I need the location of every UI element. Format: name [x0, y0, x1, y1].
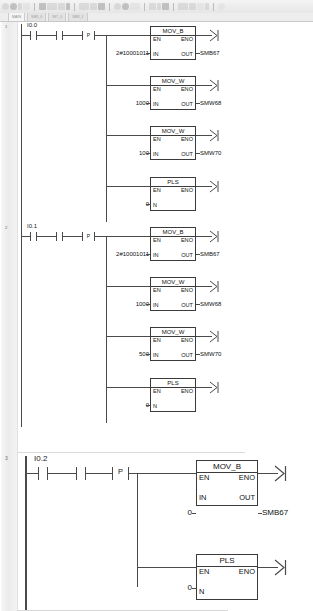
operand-in-mov-b-rung-1[interactable]: 2#10001011	[100, 50, 149, 57]
box-pls-rung-1[interactable]: PLS EN ENO N	[150, 177, 196, 211]
ladder-editor-canvas[interactable]: 1 I0.0 P MOV_B EN ENO IN OUT 2#10001011 …	[0, 22, 313, 611]
run-icon[interactable]	[114, 3, 121, 10]
eno-terminator-icon	[209, 180, 220, 193]
tab-sbr-0[interactable]: SBR_0	[27, 13, 46, 21]
eno-terminator-icon	[209, 29, 220, 42]
toolbar-separator	[109, 3, 110, 11]
download-icon[interactable]	[90, 3, 97, 10]
tab-main[interactable]: MAIN	[8, 13, 25, 21]
rung-number-2: 2	[5, 225, 7, 230]
open-icon[interactable]	[10, 3, 17, 10]
box-pls-rung-3[interactable]: PLS EN ENO N	[196, 554, 258, 600]
power-rail-rung-2	[21, 225, 22, 427]
help-icon[interactable]	[218, 3, 225, 10]
branch-wire	[106, 336, 150, 337]
toolbar-group-view	[147, 3, 171, 10]
operand-in-mov-w-2-rung-2[interactable]: 500	[110, 351, 149, 358]
toolbar-group-help	[216, 3, 227, 10]
copy-icon[interactable]	[47, 3, 57, 10]
operand-in-pls-rung-3[interactable]: 0	[166, 584, 192, 591]
in-wire	[146, 405, 150, 406]
toolbar-separator	[34, 3, 35, 11]
tab-sbr-1[interactable]: SBR_1	[68, 13, 87, 21]
operand-out-mov-b-rung-2[interactable]: SMB67	[200, 251, 220, 258]
toolbar-separator	[144, 3, 145, 11]
toolbar-group-run	[112, 3, 142, 10]
operand-out-mov-w-1-rung-1[interactable]: SMW68	[200, 100, 221, 107]
program-block-tabs: MAIN SBR_0 INT_0 SBR_1	[0, 13, 313, 22]
contact-second[interactable]	[47, 30, 73, 42]
contact-second[interactable]	[63, 466, 101, 482]
eno-terminator-icon	[209, 230, 220, 243]
toolbar-separator	[173, 3, 174, 11]
box-icon[interactable]	[197, 3, 204, 10]
contact-positive-edge[interactable]: P	[73, 30, 106, 42]
toolbar-separator	[213, 3, 214, 11]
grid-icon[interactable]	[162, 3, 169, 10]
operand-in-mov-b-rung-2[interactable]: 2#10001011	[100, 251, 149, 258]
in-wire	[146, 153, 150, 154]
coil-icon[interactable]	[189, 3, 196, 10]
box-pls-rung-2[interactable]: PLS EN ENO N	[150, 378, 196, 412]
branch-wire	[106, 85, 150, 86]
eno-terminator-icon	[209, 330, 220, 343]
branch-wire	[106, 236, 150, 237]
toolbar-group-file	[0, 3, 32, 10]
contact-icon[interactable]	[178, 3, 188, 10]
contact-i0-0[interactable]: I0.0	[21, 30, 47, 42]
operand-in-mov-w-2-rung-1[interactable]: 100	[110, 150, 149, 157]
box-mov-b-rung-1[interactable]: MOV_B EN ENO IN OUT	[150, 26, 196, 60]
contact-i0-1[interactable]: I0.1	[21, 231, 47, 243]
rung-gutter	[1, 22, 18, 611]
zoom-out-icon[interactable]	[157, 3, 161, 10]
operand-out-mov-b-rung-1[interactable]: SMB67	[200, 50, 220, 57]
cut-icon[interactable]	[39, 3, 46, 10]
eno-terminator-icon	[209, 381, 220, 394]
eno-terminator-icon	[209, 79, 220, 92]
in-wire	[192, 588, 196, 589]
operand-out-mov-w-1-rung-2[interactable]: SMW68	[200, 301, 221, 308]
line-icon[interactable]	[205, 3, 209, 10]
upload-icon[interactable]	[98, 3, 105, 10]
zoom-in-icon[interactable]	[149, 3, 156, 10]
compile-icon[interactable]	[79, 3, 89, 10]
eno-terminator-icon	[274, 559, 288, 576]
operand-out-mov-b-rung-3[interactable]: SMB67	[262, 509, 288, 516]
box-mov-w-1-rung-2[interactable]: MOV_W EN ENO IN OUT	[150, 277, 196, 311]
save-icon[interactable]	[18, 3, 22, 10]
branch-wire	[137, 473, 196, 474]
eno-terminator-icon	[209, 129, 220, 142]
tab-int-0[interactable]: INT_0	[48, 13, 66, 21]
operand-out-mov-w-2-rung-1[interactable]: SMW70	[200, 150, 221, 157]
paste-icon[interactable]	[58, 3, 65, 10]
new-icon[interactable]	[2, 3, 9, 10]
eno-terminator-icon	[209, 280, 220, 293]
contact-i0-2[interactable]: I0.2	[25, 466, 63, 482]
eno-terminator-icon	[274, 465, 288, 482]
operand-in-mov-b-rung-3[interactable]: 0	[166, 509, 192, 516]
application-toolbar	[0, 0, 313, 14]
branch-wire	[106, 387, 150, 388]
in-wire	[146, 204, 150, 205]
stop-icon[interactable]	[122, 3, 129, 10]
operand-in-mov-w-1-rung-2[interactable]: 1000	[110, 301, 149, 308]
box-mov-b-rung-2[interactable]: MOV_B EN ENO IN OUT	[150, 227, 196, 261]
branch-wire	[106, 35, 150, 36]
undo-icon[interactable]	[66, 3, 70, 10]
box-mov-b-rung-3[interactable]: MOV_B EN ENO IN OUT	[196, 460, 258, 506]
in-wire	[146, 354, 150, 355]
operand-in-mov-w-1-rung-1[interactable]: 1000	[110, 100, 149, 107]
contact-second[interactable]	[47, 231, 73, 243]
status-chart-icon[interactable]	[130, 3, 140, 10]
branch-bus-rung-3	[137, 473, 138, 587]
box-mov-w-2-rung-2[interactable]: MOV_W EN ENO IN OUT	[150, 327, 196, 361]
branch-wire	[106, 186, 150, 187]
branch-bus-rung-2	[106, 236, 107, 423]
contact-positive-edge[interactable]: P	[73, 231, 106, 243]
box-mov-w-1-rung-1[interactable]: MOV_W EN ENO IN OUT	[150, 76, 196, 110]
operand-out-mov-w-2-rung-2[interactable]: SMW70	[200, 351, 221, 358]
toolbar-group-transfer	[77, 3, 107, 10]
print-icon[interactable]	[23, 3, 30, 10]
branch-bus-rung-1	[106, 35, 107, 222]
box-mov-w-2-rung-1[interactable]: MOV_W EN ENO IN OUT	[150, 126, 196, 160]
